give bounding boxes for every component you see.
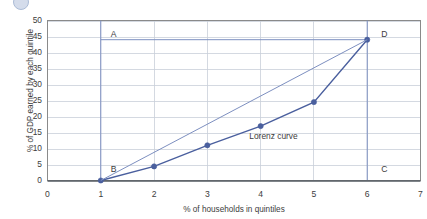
- annotation-d: D: [381, 30, 387, 39]
- annotation-b: B: [111, 165, 117, 174]
- annotation-a: A: [111, 30, 117, 39]
- annotation-curve: Lorenz curve: [249, 131, 297, 141]
- annotation-c: C: [381, 165, 387, 174]
- x-axis-title: % of households in quintiles: [47, 205, 421, 214]
- y-axis-title: % of GDP earned by each quintile: [26, 6, 35, 176]
